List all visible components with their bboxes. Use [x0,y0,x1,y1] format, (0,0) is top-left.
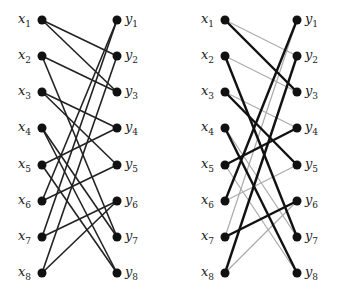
node-label-y7: y7 [305,229,318,248]
node-label-x4: x4 [18,120,31,139]
node-y8 [113,269,122,278]
node-label-x7: x7 [18,229,31,248]
node-label-y8: y8 [125,265,138,284]
node-x8 [38,269,47,278]
node-label-y2: y2 [125,48,138,67]
node-y7 [293,233,302,242]
node-x4 [38,124,47,133]
node-y4 [293,124,302,133]
node-label-x1: x1 [18,12,31,31]
node-label-y6: y6 [305,193,318,212]
node-x1 [38,16,47,25]
left-graph [38,16,122,278]
node-label-y4: y4 [305,120,318,139]
node-x8 [221,269,230,278]
node-label-y1: y1 [305,12,318,31]
node-x3 [221,88,230,97]
node-y5 [113,161,122,170]
node-label-x3: x3 [18,84,31,103]
node-label-y5: y5 [125,157,138,176]
edge-x7-y1 [42,20,117,237]
node-label-x8: x8 [201,265,214,284]
node-label-x3: x3 [201,84,214,103]
edge-x7-y6 [225,201,297,237]
edge-x5-y4 [225,128,297,165]
edge-x8-y2 [42,56,117,273]
node-y3 [293,88,302,97]
node-y2 [293,52,302,61]
node-label-x8: x8 [18,265,31,284]
edge-x8-y6 [42,201,117,273]
edge-x4-y8 [42,128,117,273]
node-y7 [113,233,122,242]
right-graph [221,16,302,278]
bipartite-graphs-canvas [0,0,340,293]
node-y3 [113,88,122,97]
node-label-y6: y6 [125,193,138,212]
edge-x4-y8 [225,128,297,273]
edge-x5-y4 [42,128,117,165]
node-label-y5: y5 [305,157,318,176]
node-y5 [293,161,302,170]
node-x5 [38,161,47,170]
node-y2 [113,52,122,61]
node-x1 [221,16,230,25]
node-y1 [113,16,122,25]
node-x2 [221,52,230,61]
edge-x6-y1 [42,20,117,201]
node-label-x6: x6 [201,193,214,212]
edge-x6-y1 [225,20,297,201]
node-label-y3: y3 [305,84,318,103]
node-label-x1: x1 [201,12,214,31]
edge-x3-y5 [225,92,297,165]
node-label-x4: x4 [201,120,214,139]
node-x7 [221,233,230,242]
edge-x6-y5 [225,165,297,201]
node-label-x6: x6 [18,193,31,212]
node-y6 [113,197,122,206]
node-label-y7: y7 [125,229,138,248]
node-x6 [38,197,47,206]
node-y1 [293,16,302,25]
node-x7 [38,233,47,242]
node-label-x2: x2 [18,48,31,67]
node-label-y2: y2 [305,48,318,67]
node-x3 [38,88,47,97]
node-x2 [38,52,47,61]
node-label-x7: x7 [201,229,214,248]
edge-x6-y5 [42,165,117,201]
node-label-x5: x5 [18,157,31,176]
node-label-y4: y4 [125,120,138,139]
node-y8 [293,269,302,278]
node-x5 [221,161,230,170]
node-x4 [221,124,230,133]
node-label-y1: y1 [125,12,138,31]
edge-x1-y2 [225,20,297,56]
node-y6 [293,197,302,206]
node-label-x2: x2 [201,48,214,67]
node-x6 [221,197,230,206]
node-label-x5: x5 [201,157,214,176]
node-y4 [113,124,122,133]
node-label-y3: y3 [125,84,138,103]
node-label-y8: y8 [305,265,318,284]
edge-x8-y2 [225,56,297,273]
